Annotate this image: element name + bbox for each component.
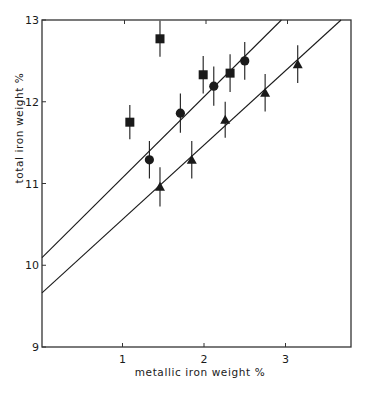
- square-marker-icon: [125, 118, 134, 127]
- y-tick-label: 12: [25, 96, 39, 109]
- x-tick-label: 1: [119, 353, 126, 366]
- triangle-marker-icon: [293, 59, 303, 68]
- circle-data-point: [176, 94, 185, 133]
- square-marker-icon: [155, 34, 164, 43]
- circle-marker-icon: [240, 56, 249, 65]
- y-axis-ticks: 910111213: [25, 14, 46, 354]
- upper-fit-line: [42, 20, 281, 258]
- y-axis-label: total iron weight %: [13, 73, 25, 184]
- circle-marker-icon: [176, 109, 185, 118]
- triangle-marker-icon: [220, 115, 230, 124]
- square-data-point: [125, 105, 134, 139]
- circle-data-point: [240, 42, 249, 80]
- plot-frame: [42, 20, 351, 347]
- square-data-point: [199, 56, 208, 94]
- triangle-data-point: [293, 45, 303, 83]
- plot-border: [42, 20, 351, 347]
- triangle-data-point: [155, 167, 165, 206]
- circle-data-point: [209, 67, 218, 106]
- x-tick-label: 2: [201, 353, 208, 366]
- square-data-point: [226, 54, 235, 92]
- y-tick-label: 13: [25, 14, 39, 27]
- y-tick-label: 11: [25, 178, 39, 191]
- circle-data-point: [145, 141, 154, 179]
- x-tick-label: 3: [282, 353, 289, 366]
- square-marker-icon: [199, 70, 208, 79]
- circle-marker-icon: [145, 155, 154, 164]
- data-points: [125, 21, 302, 207]
- square-data-point: [155, 21, 164, 57]
- triangle-data-point: [220, 102, 230, 138]
- square-marker-icon: [226, 69, 235, 78]
- y-tick-label: 10: [25, 259, 39, 272]
- circle-marker-icon: [209, 82, 218, 91]
- x-axis-label: metallic iron weight %: [135, 366, 265, 378]
- triangle-marker-icon: [155, 182, 165, 191]
- y-tick-label: 9: [32, 341, 39, 354]
- chart: 910111213 123 metallic iron weight % tot…: [0, 0, 366, 393]
